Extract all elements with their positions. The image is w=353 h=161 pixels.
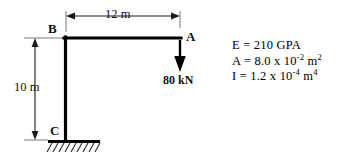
property-inertia-exponent: -4 [293,67,300,77]
property-area-base: 10 [284,54,297,68]
span-arrowhead-left [66,13,75,20]
property-area: A = 8.0 x 10-2 m2 [232,54,322,70]
property-modulus-value: 210 [254,38,273,52]
property-area-exponent: -2 [297,51,304,61]
frame-members [64,37,181,141]
property-modulus-symbol: E [232,38,240,52]
joint-label-C: C [50,124,59,137]
joint-label-A: A [186,30,195,43]
height-arrowhead-bottom [32,131,39,140]
point-load-group [174,40,186,72]
property-inertia-base: 10 [280,69,293,83]
property-area-unit-exponent: 2 [317,51,321,61]
load-arrowhead [174,56,186,72]
property-area-equals: = [244,54,251,68]
property-inertia-symbol: I [232,69,236,83]
property-inertia-equals: = [240,69,247,83]
load-magnitude-label: 80 kN [163,74,193,86]
span-dimension-label: 12 m [105,8,130,21]
joint-label-B: B [48,22,57,35]
property-inertia-unit-exponent: 4 [313,67,317,77]
height-arrowhead-top [32,38,39,47]
property-inertia: I = 1.2 x 10-4 m4 [232,69,322,85]
property-modulus: E = 210 GPA [232,38,322,54]
height-dimension-label: 10 m [14,81,39,94]
property-area-mantissa: 8.0 [254,54,270,68]
property-modulus-unit: GPA [276,38,300,52]
property-inertia-mantissa: 1.2 [250,69,266,83]
property-modulus-equals: = [243,38,250,52]
property-inertia-times: x [270,69,276,83]
property-inertia-unit: m [303,69,313,83]
property-area-unit: m [308,54,318,68]
property-area-times: x [274,54,280,68]
figure-canvas: B A C 12 m 10 m 80 kN E = 210 GPA A = 8.… [0,0,353,161]
property-area-symbol: A [232,54,241,68]
properties-block: E = 210 GPA A = 8.0 x 10-2 m2 I = 1.2 x … [232,38,322,85]
support-hatching [47,143,100,152]
fixed-support-group [47,142,100,153]
span-arrowhead-right [171,13,180,20]
